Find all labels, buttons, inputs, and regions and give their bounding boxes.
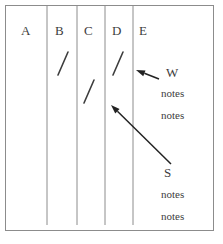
column-header-b: B [55, 24, 64, 37]
annotation-label-w: W [166, 66, 178, 79]
annotation-note-w-2: notes [161, 110, 184, 121]
annotation-note-s-2: notes [161, 211, 184, 222]
column-header-d: D [112, 24, 121, 37]
annotation-label-s: S [164, 166, 171, 179]
column-header-c: C [84, 24, 93, 37]
figure-canvas: ABCDE WnotesnotesSnotesnotes [0, 0, 223, 244]
column-header-a: A [21, 24, 30, 37]
annotation-note-s-1: notes [161, 189, 184, 200]
annotation-note-w-1: notes [161, 88, 184, 99]
column-header-e: E [139, 24, 147, 37]
